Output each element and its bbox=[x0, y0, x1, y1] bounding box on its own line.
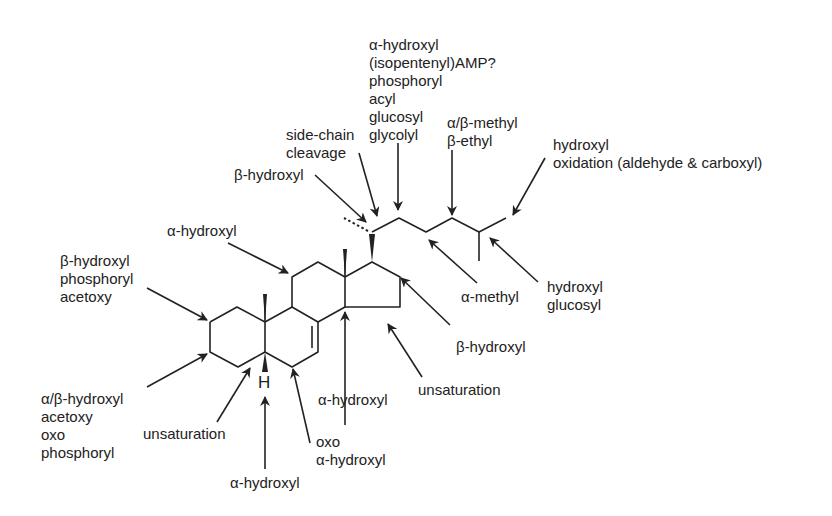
annotation-c16: β-hydroxyl bbox=[456, 338, 525, 356]
label-line: α-hydroxyl bbox=[230, 474, 300, 492]
annotation-c20-beta-hydroxyl: β-hydroxyl bbox=[234, 166, 303, 184]
annotation-c4-unsaturation: unsaturation bbox=[143, 425, 226, 443]
annotation-c14: α-hydroxyl bbox=[318, 391, 388, 409]
label-line: side-chain bbox=[286, 126, 354, 144]
label-line: β-hydroxyl bbox=[60, 252, 133, 270]
label-line: hydroxyl bbox=[547, 278, 603, 296]
label-line: unsaturation bbox=[143, 425, 226, 443]
annotation-c5: α-hydroxyl bbox=[230, 474, 300, 492]
steroid-modification-diagram: H α-hydroxyl (isopentenyl)AMP? phosphory… bbox=[0, 0, 832, 516]
annotation-c24: α/β-methyl β-ethyl bbox=[447, 114, 518, 150]
label-line: acyl bbox=[369, 90, 496, 108]
label-line: oxo bbox=[41, 426, 123, 444]
annotation-c3: β-hydroxyl phosphoryl acetoxy bbox=[60, 252, 133, 306]
label-line: phosphoryl bbox=[41, 444, 123, 462]
label-line: α-methyl bbox=[461, 288, 519, 306]
annotation-c2: α/β-hydroxyl acetoxy oxo phosphoryl bbox=[41, 390, 123, 462]
annotation-c6: oxo α-hydroxyl bbox=[316, 433, 386, 469]
annotation-c15-unsaturation: unsaturation bbox=[418, 381, 501, 399]
c5-wedge-bond bbox=[262, 352, 268, 372]
label-line: glucosyl bbox=[547, 296, 603, 314]
c17-wedge-bond bbox=[369, 234, 375, 262]
label-line: (isopentenyl)AMP? bbox=[369, 54, 496, 72]
label-line: hydroxyl bbox=[553, 136, 762, 154]
annotation-c26: hydroxyl oxidation (aldehyde & carboxyl) bbox=[553, 136, 762, 172]
label-line: α-hydroxyl bbox=[318, 391, 388, 409]
label-line: β-hydroxyl bbox=[234, 166, 303, 184]
label-line: α-hydroxyl bbox=[167, 222, 237, 240]
label-line: oxo bbox=[316, 433, 386, 451]
label-line: α/β-methyl bbox=[447, 114, 518, 132]
label-line: α/β-hydroxyl bbox=[41, 390, 123, 408]
label-line: α-hydroxyl bbox=[316, 451, 386, 469]
label-line: phosphoryl bbox=[369, 72, 496, 90]
annotation-side-chain-cleavage: side-chain cleavage bbox=[286, 126, 354, 162]
label-line: β-ethyl bbox=[447, 132, 518, 150]
label-line: phosphoryl bbox=[60, 270, 133, 288]
annotation-c11: α-hydroxyl bbox=[167, 222, 237, 240]
arrows bbox=[147, 143, 545, 469]
annotation-c23: α-methyl bbox=[461, 288, 519, 306]
label-line: acetoxy bbox=[41, 408, 123, 426]
h5-label: H bbox=[258, 374, 270, 392]
label-line: unsaturation bbox=[418, 381, 501, 399]
label-line: cleavage bbox=[286, 144, 354, 162]
label-line: α-hydroxyl bbox=[369, 36, 496, 54]
label-line: acetoxy bbox=[60, 288, 133, 306]
label-line: β-hydroxyl bbox=[456, 338, 525, 356]
annotation-c25: hydroxyl glucosyl bbox=[547, 278, 603, 314]
label-line: oxidation (aldehyde & carboxyl) bbox=[553, 154, 762, 172]
